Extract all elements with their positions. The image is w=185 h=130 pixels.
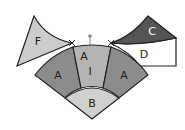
- label-a-left: A: [54, 69, 62, 82]
- label-a-right: A: [120, 69, 128, 82]
- label-c: C: [148, 25, 156, 38]
- label-f: F: [35, 35, 41, 48]
- piece-c: [110, 16, 176, 44]
- pin-icon: [88, 34, 92, 45]
- diagram-canvas: F C D A A I A B: [0, 0, 185, 130]
- quilt-diagram: F C D A A I A B: [0, 0, 185, 130]
- label-center-mark: I: [88, 65, 91, 78]
- label-d: D: [140, 48, 148, 61]
- label-b: B: [88, 97, 96, 110]
- label-a-center: A: [80, 50, 88, 63]
